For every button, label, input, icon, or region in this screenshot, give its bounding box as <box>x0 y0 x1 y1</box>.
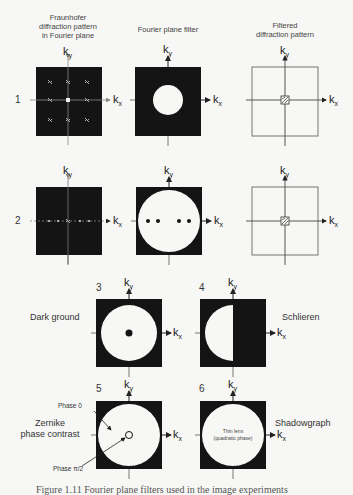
filter-label-zernike: Zernike phase contrast <box>14 418 86 440</box>
ky-label: ky <box>280 164 289 178</box>
thin-lens-line1: Thin lens <box>203 428 263 435</box>
ky-label: ky <box>124 378 133 392</box>
header-col1-line1: Fraunhofer <box>18 13 118 22</box>
kx-label: kx <box>173 428 182 442</box>
filter-3-dark-ground <box>91 289 171 377</box>
ky-label: ky <box>124 276 133 290</box>
annotation-phase-pi-2: Phase π/2 <box>53 465 83 472</box>
kx-label: kx <box>113 93 122 107</box>
kx-label: kx <box>173 326 182 340</box>
header-col1-line3: in Fourier plane <box>18 31 118 40</box>
kx-label: kx <box>329 214 338 228</box>
ky-label: ky <box>163 43 172 57</box>
row1-filtered-pattern <box>246 56 326 146</box>
filter-number-3: 3 <box>96 282 102 293</box>
filter-label-shadowgraph: Shadowgraph <box>275 418 331 428</box>
kx-label: kx <box>277 428 286 442</box>
row-number-2: 2 <box>15 215 21 226</box>
filter-label-schlieren: Schlieren <box>282 312 320 322</box>
header-col2: Fourier plane filter <box>118 25 218 34</box>
ky-label: ky <box>63 45 72 59</box>
kx-label: kx <box>113 214 122 228</box>
header-col3-line2: diffraction pattern <box>235 30 335 39</box>
header-col1: Fraunhofer diffraction pattern in Fourie… <box>18 13 118 40</box>
filter-number-4: 4 <box>199 282 205 293</box>
row2-filter-side-orders-blocked <box>131 177 211 255</box>
header-col3: Filtered diffraction pattern <box>235 21 335 39</box>
annotation-phase-0: Phase 0 <box>58 402 82 409</box>
filter-number-6: 6 <box>199 383 205 394</box>
filter-label-dark-ground: Dark ground <box>30 312 80 322</box>
kx-label: kx <box>214 214 223 228</box>
filter-4-schlieren <box>195 289 275 377</box>
kx-label: kx <box>277 326 286 340</box>
row2-filtered-pattern <box>246 176 326 265</box>
filter-number-5: 5 <box>96 383 102 394</box>
row1-diffraction-pattern <box>30 58 110 145</box>
ky-label: ky <box>164 164 173 178</box>
row2-diffraction-pattern <box>30 178 110 264</box>
thin-lens-text: Thin lens (quadratic phase) <box>203 428 263 442</box>
filter-5-zernike <box>82 391 171 479</box>
ky-label: ky <box>228 378 237 392</box>
row-number-1: 1 <box>15 94 21 105</box>
ky-label: ky <box>63 164 72 178</box>
zernike-line1: Zernike <box>14 418 86 429</box>
ky-label: ky <box>228 276 237 290</box>
thin-lens-line2: (quadratic phase) <box>203 435 263 442</box>
row1-filter-low-pass <box>130 56 210 146</box>
header-col3-line1: Filtered <box>235 21 335 30</box>
zernike-line2: phase contrast <box>14 429 86 440</box>
kx-label: kx <box>213 93 222 107</box>
kx-label: kx <box>329 93 338 107</box>
header-col1-line2: diffraction pattern <box>18 22 118 31</box>
ky-label: ky <box>280 44 289 58</box>
figure-caption: Figure 1.11 Fourier plane filters used i… <box>36 484 288 495</box>
